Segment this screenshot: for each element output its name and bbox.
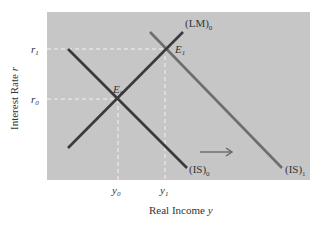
y0-tick-label: y0 bbox=[111, 184, 121, 198]
r1-tick-label: r1 bbox=[31, 43, 39, 57]
y-axis-title: Interest Rate r bbox=[8, 66, 20, 130]
r0-tick-label: r0 bbox=[31, 93, 39, 107]
x-axis-title: Real Income y bbox=[149, 204, 213, 216]
is-lm-diagram: (LM)0 (IS)0 (IS)1 E0 E1 r1 r0 y0 y1 Real… bbox=[0, 0, 324, 229]
y1-tick-label: y1 bbox=[159, 184, 168, 198]
